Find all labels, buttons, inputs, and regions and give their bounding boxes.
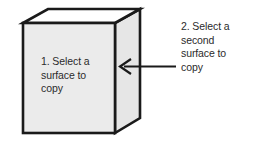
callout-instruction-label: 2. Select a second surface to copy xyxy=(181,20,257,74)
diagram-canvas: 1. Select a surface to copy 2. Select a … xyxy=(0,0,258,141)
front-face-instruction-label: 1. Select a surface to copy xyxy=(41,55,113,96)
